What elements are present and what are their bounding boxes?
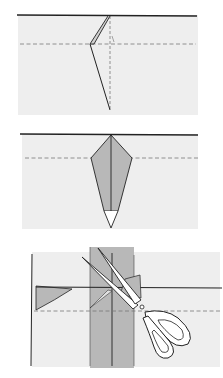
step-2-panel [20,134,198,229]
fabric-swatch-1 [18,15,198,115]
step-3-panel [31,247,222,368]
dart-illustration [0,0,223,378]
step-1-panel [17,15,198,115]
diagram: Sewing dart steps [0,0,223,378]
seam-edge-1 [17,15,197,16]
scissors-pivot [140,305,144,309]
selvedge-3 [31,254,32,366]
